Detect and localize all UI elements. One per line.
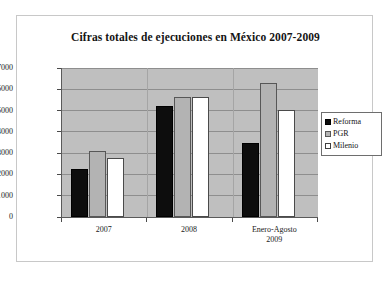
y-axis-tick-mark bbox=[57, 195, 61, 196]
plot-wrapper: 0100020003000400050006000700020072008Ene… bbox=[61, 68, 318, 218]
category-separator bbox=[233, 68, 234, 217]
y-axis-tick-label: 0 bbox=[0, 213, 13, 221]
gridline bbox=[62, 68, 318, 69]
legend-label-pgr: PGR bbox=[333, 129, 349, 138]
black-square-icon bbox=[325, 119, 331, 125]
y-axis-tick-mark bbox=[57, 68, 61, 69]
y-axis-tick-label: 5000 bbox=[0, 107, 13, 115]
y-axis-tick-label: 6000 bbox=[0, 85, 13, 93]
bar-pgr-2 bbox=[260, 83, 277, 217]
chart-title: Cifras totales de ejecuciones en México … bbox=[17, 31, 374, 43]
y-axis-tick-label: 2000 bbox=[0, 170, 13, 178]
bar-reforma-2 bbox=[242, 143, 259, 218]
y-axis-tick-mark bbox=[57, 153, 61, 154]
x-axis-tick-label-line: Enero-Agosto bbox=[221, 225, 327, 235]
chart-figure-frame: Cifras totales de ejecuciones en México … bbox=[16, 15, 373, 262]
legend-label-reforma: Reforma bbox=[333, 117, 361, 126]
gray-square-icon bbox=[325, 131, 331, 137]
legend-item-reforma: Reforma bbox=[325, 116, 378, 127]
bar-milenio-1 bbox=[192, 97, 209, 217]
y-axis-tick-mark bbox=[57, 174, 61, 175]
x-axis-tick-label-line: 2009 bbox=[221, 235, 327, 245]
bar-reforma-1 bbox=[156, 106, 173, 217]
x-axis-category-label: Enero-Agosto2009 bbox=[221, 225, 327, 245]
plot-area bbox=[61, 68, 318, 218]
y-axis-tick-label: 3000 bbox=[0, 149, 13, 157]
x-axis-tick-mark bbox=[61, 218, 62, 222]
x-axis-tick-mark bbox=[232, 218, 233, 222]
bar-pgr-0 bbox=[89, 151, 106, 217]
bar-milenio-2 bbox=[278, 110, 295, 217]
y-axis-tick-label: 1000 bbox=[0, 192, 13, 200]
bar-pgr-1 bbox=[174, 97, 191, 217]
y-axis-tick-mark bbox=[57, 131, 61, 132]
bar-reforma-0 bbox=[71, 169, 88, 217]
x-axis-tick-mark bbox=[146, 218, 147, 222]
gridline bbox=[62, 89, 318, 90]
legend-item-milenio: Milenio bbox=[325, 140, 378, 151]
legend-label-milenio: Milenio bbox=[333, 141, 358, 150]
y-axis-tick-label: 4000 bbox=[0, 128, 13, 136]
white-square-icon bbox=[325, 143, 331, 149]
chart-legend: Reforma PGR Milenio bbox=[321, 112, 382, 156]
y-axis-tick-label: 7000 bbox=[0, 64, 13, 72]
legend-item-pgr: PGR bbox=[325, 128, 378, 139]
y-axis-tick-mark bbox=[57, 89, 61, 90]
x-axis-tick-mark bbox=[317, 218, 318, 222]
category-separator bbox=[147, 68, 148, 217]
bar-milenio-0 bbox=[107, 158, 124, 217]
y-axis-tick-mark bbox=[57, 110, 61, 111]
